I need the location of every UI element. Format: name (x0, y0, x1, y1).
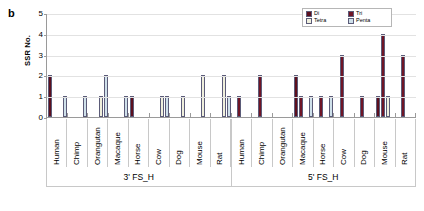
x-axis-label-cell: Horse (129, 119, 149, 167)
x-axis-label: Dog (175, 150, 183, 165)
x-axis-label-cell: Human (231, 119, 252, 167)
legend-item: Penta (348, 18, 388, 24)
legend-label: Penta (356, 18, 370, 24)
legend-swatch-icon (348, 18, 354, 24)
bar-cluster (88, 14, 109, 117)
bar-group-3prime (47, 14, 232, 117)
bar-cluster (334, 14, 355, 117)
y-axis-title: SSR No. (23, 21, 32, 81)
bar-cluster (314, 14, 335, 117)
x-axis-label-cell: Mouse (190, 119, 210, 167)
legend-item: Tri (348, 11, 388, 17)
legend-label: Di (314, 11, 319, 17)
x-axis-label: Orangutan (278, 127, 286, 165)
bar (319, 96, 323, 117)
bar-cluster (232, 14, 253, 117)
legend-swatch-icon (306, 18, 312, 24)
legend-item: Tetra (306, 18, 346, 24)
bar-cluster (273, 14, 294, 117)
bar (401, 55, 405, 117)
gridline (47, 76, 416, 77)
panel-letter: b (8, 8, 15, 19)
bar-cluster (129, 14, 150, 117)
x-axis-label-cell: Mouse (375, 119, 395, 167)
group-label: 3' FS_H (47, 167, 232, 186)
gridline (47, 56, 416, 57)
x-axis-label: Macaque (114, 132, 122, 165)
bar (99, 96, 103, 117)
legend-label: Tetra (314, 18, 326, 24)
y-axis-tick-label: 0 (39, 114, 43, 122)
x-axis-label-cell: Horse (314, 119, 334, 167)
bar-cluster (191, 14, 212, 117)
bar-group-5prime (232, 14, 417, 117)
x-axis-label: Horse (134, 144, 142, 165)
x-axis-label: Chimp (73, 142, 81, 165)
y-axis-tick-mark (44, 35, 47, 36)
x-axis-label: Mouse (195, 141, 203, 165)
bar (160, 96, 164, 117)
x-axis-label: Macaque (299, 132, 307, 165)
bar (340, 55, 344, 117)
x-axis-label-cell: Rat (211, 119, 231, 167)
x-axis-label-cell: Dog (355, 119, 375, 167)
bar (130, 96, 134, 117)
x-axis-label-cell: Cow (149, 119, 169, 167)
legend-item: Di (306, 11, 346, 17)
x-axis-label-cell: Macaque (108, 119, 128, 167)
y-axis-tick-mark (44, 14, 47, 15)
legend-swatch-icon (306, 11, 312, 17)
bar-cluster (355, 14, 376, 117)
chart-legend: DiTriTetraPenta (302, 8, 392, 27)
gridline (47, 35, 416, 36)
x-axis-label-cell: Cow (334, 119, 354, 167)
figure-panel-b: b SSR No. 012345 HumanChimpOrangutanMaca… (0, 0, 424, 211)
x-axis-label: Chimp (258, 142, 266, 165)
x-axis-label: Human (52, 139, 60, 165)
bar (360, 96, 364, 117)
legend-swatch-icon (348, 11, 354, 17)
x-axis-label-cell: Chimp (67, 119, 87, 167)
y-axis-tick-label: 3 (39, 52, 43, 60)
x-axis-label: Cow (339, 149, 347, 165)
bar-cluster (396, 14, 417, 117)
x-axis-label-cell: Orangutan (88, 119, 108, 167)
x-label-half: HumanChimpOrangutanMacaqueHorseCowDogMou… (46, 119, 231, 167)
x-axis-label: Human (237, 139, 245, 165)
bar-cluster (375, 14, 396, 117)
x-axis-label-cell: Dog (170, 119, 190, 167)
bar-cluster (293, 14, 314, 117)
x-axis-label-cell: Orangutan (273, 119, 293, 167)
x-axis-label: Orangutan (93, 127, 101, 165)
gridline (47, 97, 416, 98)
bar-cluster (68, 14, 89, 117)
bar (386, 96, 390, 117)
bar (237, 96, 241, 117)
x-axis-label: Rat (216, 153, 224, 165)
x-axis-labels: HumanChimpOrangutanMacaqueHorseCowDogMou… (46, 119, 416, 167)
x-axis-label: Horse (319, 144, 327, 165)
y-axis-tick-label: 2 (39, 72, 43, 80)
bar (376, 96, 380, 117)
bar-cluster (47, 14, 68, 117)
bar-cluster (170, 14, 191, 117)
bar (181, 96, 185, 117)
y-axis-tick-mark (44, 76, 47, 77)
y-axis-tick-mark (44, 97, 47, 98)
x-axis-label: Dog (360, 150, 368, 165)
bar-cluster (252, 14, 273, 117)
x-axis-label: Mouse (380, 141, 388, 165)
y-axis-tick-label: 1 (39, 93, 43, 101)
legend-label: Tri (356, 11, 362, 17)
bar-groups (47, 14, 416, 117)
bar-cluster (211, 14, 232, 117)
plot-area: 012345 (46, 14, 416, 118)
x-label-half: HumanChimpOrangutanMacaqueHorseCowDogMou… (231, 119, 416, 167)
x-axis-label-cell: Rat (396, 119, 416, 167)
x-axis-label-cell: Chimp (252, 119, 272, 167)
x-axis-label: Rat (401, 153, 409, 165)
x-axis-label-cell: Human (46, 119, 67, 167)
bar (299, 96, 303, 117)
bar-cluster (109, 14, 130, 117)
group-label: 5' FS_H (232, 167, 416, 186)
